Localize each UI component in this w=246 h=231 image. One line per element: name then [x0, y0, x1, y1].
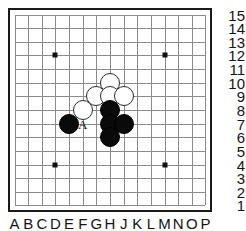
column-label-F: F — [78, 216, 87, 231]
row-coordinate-axis: 151413121110987654321 — [215, 8, 246, 217]
row-label-1: 1 — [237, 198, 245, 213]
gridline-vertical — [124, 15, 125, 206]
gridline-horizontal — [15, 165, 206, 166]
gridline-vertical — [192, 15, 193, 206]
column-label-L: L — [147, 216, 155, 231]
star-point — [162, 162, 167, 167]
column-label-C: C — [36, 216, 47, 231]
column-label-B: B — [23, 216, 33, 231]
column-label-H: H — [105, 216, 116, 231]
go-diagram: A 151413121110987654321 ABCDEFGHJKLMNOP — [0, 0, 246, 231]
star-point — [162, 53, 167, 58]
star-point — [53, 53, 58, 58]
gridline-horizontal — [15, 151, 206, 152]
star-point — [53, 162, 58, 167]
gridline-vertical — [151, 15, 152, 206]
black-stone[interactable] — [100, 127, 120, 147]
column-label-D: D — [50, 216, 61, 231]
board-marker-a: A — [78, 117, 87, 130]
gridline-vertical — [178, 15, 179, 206]
column-label-P: P — [200, 216, 210, 231]
column-label-A: A — [10, 216, 20, 231]
gridline-vertical — [137, 15, 138, 206]
gridline-horizontal — [15, 178, 206, 179]
column-label-M: M — [158, 216, 171, 231]
column-label-O: O — [186, 216, 198, 231]
black-stone[interactable] — [59, 114, 79, 134]
gridline-horizontal — [15, 192, 206, 193]
gridline-horizontal — [15, 205, 206, 206]
column-label-N: N — [173, 216, 184, 231]
column-label-E: E — [64, 216, 74, 231]
column-label-J: J — [120, 216, 128, 231]
column-label-G: G — [91, 216, 103, 231]
gridline-vertical — [205, 15, 206, 206]
gridline-vertical — [165, 15, 166, 206]
column-coordinate-axis: ABCDEFGHJKLMNOP — [8, 216, 212, 231]
column-label-K: K — [132, 216, 142, 231]
go-board[interactable]: A — [8, 8, 212, 212]
